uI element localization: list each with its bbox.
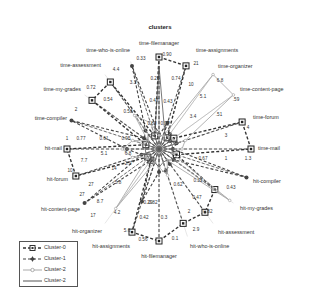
circle-marker-icon [133,114,136,117]
axis-label-time-organizer: time-organizer [218,63,253,69]
data-value-label: 2 [75,107,78,112]
data-value-label: 0.61 [100,136,109,141]
axis-label-time-who-is-online: time-who-is-online [86,47,130,53]
data-value-label: 0.58 [124,109,133,114]
axis-label-hit-compiler: hit-compiler [253,178,281,184]
data-value-label: 10 [67,168,73,173]
data-value-label: 6.8 [125,151,132,156]
axis-label-hit-my-grades: hit-my-grades [240,205,273,211]
legend-label: Cluster-2 [44,277,66,283]
data-value-label: 5.8 [115,180,122,185]
chart-title: clusters [148,24,172,30]
legend-item-cluster-2-light[interactable]: Cluster-2 [22,265,78,275]
star-marker-icon [130,64,134,68]
axis-label-time-content-page: time-content-page [240,86,283,92]
data-value-label: 0.43 [227,185,236,190]
solid-line-icon [22,276,44,286]
data-value-label: 17 [90,213,96,218]
star-marker-icon [244,175,248,179]
star-marker-icon [157,170,161,174]
data-value-label: 0.56 [139,237,148,242]
circle-marker-icon [228,199,231,202]
star-marker-icon [83,201,87,205]
legend-label: Cluster-1 [44,255,66,261]
dashed-star-marker-icon [22,254,44,264]
data-value-label: 4.4 [113,67,120,72]
legend-item-cluster-1[interactable]: Cluster-1 [22,254,78,264]
axis-label-hit-content-page: hit-content-page [41,206,80,212]
data-value-label: 4.2 [114,210,121,215]
data-value-label: 2 [188,209,191,214]
data-value-label: 0.74 [172,76,181,81]
data-value-label: 7.7 [81,158,88,163]
axis-label-time-mail: time-mail [258,145,280,151]
data-value-label: 14 [111,166,117,171]
legend-item-cluster-2-dark[interactable]: Cluster-2 [22,276,78,286]
dashed-square-marker-icon [22,243,44,253]
axis-label-hit-forum: hit-forum [47,176,69,182]
circle-marker-icon [184,139,187,142]
legend-item-cluster-0[interactable]: Cluster-0 [22,243,78,253]
circle-marker-icon [181,148,184,151]
data-value-label: 3.4 [190,114,197,119]
axis-label-hit-organizer: hit-organizer [72,228,102,234]
data-value-label: 0.77 [77,136,86,141]
data-value-label: 2.9 [193,227,200,232]
data-value-label: 0.1 [172,236,179,241]
data-value-label: 4 [247,125,250,130]
data-value-label: 0.82 [149,200,158,205]
circle-marker-icon [131,156,134,159]
axis-label-time-compiler: time-compiler [35,115,68,121]
light-line-circle-marker-icon [22,265,44,275]
data-value-label: 8.7 [97,199,104,204]
data-value-label: 21 [193,61,199,66]
data-value-label: 6.8 [217,78,224,83]
circle-marker-icon [212,73,215,76]
data-value-label: 3.3 [130,80,137,85]
data-value-label: .59 [233,97,240,102]
data-value-label: 0.54 [104,97,113,102]
axis-label-hit-assessment: hit-assessment [218,229,255,235]
data-value-label: 3 [225,133,228,138]
circle-marker-icon [232,94,235,97]
data-value-label: 2.9 [125,161,132,166]
data-value-label: 27 [79,192,85,197]
data-value-label: 0.25 [151,76,160,81]
axis-label-time-filemanager: time-filemanager [139,40,179,46]
data-value-label: 5.1 [200,94,207,99]
data-value-label: 0.72 [87,85,96,90]
data-value-label: 0.80 [148,121,157,126]
circle-marker-icon [131,139,134,142]
data-value-label: 0.95 [122,136,131,141]
axis-label-hit-assignments: hit-assignments [92,243,130,249]
data-value-label: 0.97 [161,121,170,126]
data-value-label: 0.43 [164,99,173,104]
data-value-label: 0.42 [140,215,149,220]
data-value-label: 0.3 [161,215,168,220]
circle-marker-icon [121,148,124,151]
data-value-label: 5.1 [101,151,108,156]
axis-label-hit-filemanager: hit-filemanager [141,253,177,259]
legend-label: Cluster-0 [44,244,66,250]
axis-label-time-forum: time-forum [253,114,279,120]
data-value-label: 10 [188,82,194,87]
data-value-label: 0.67 [199,156,208,161]
data-value-label: 0.47 [150,98,159,103]
data-value-label: .51 [216,112,223,117]
data-value-label: 0.33 [137,56,146,61]
data-value-label: 0.90 [163,52,172,57]
data-value-label: 0.32 [194,178,203,183]
axis-label-time-assessment: time-assessment [60,62,101,68]
data-value-label: 0.62 [174,182,183,187]
circle-marker-icon [166,174,169,177]
axis-label-hit-mail: hit-mail [45,145,62,151]
axis-label-hit-who-is-online: hit-who-is-online [190,243,229,249]
axis-label-time-assignments: time-assignments [196,47,239,53]
radar-chart: clusters time-filemanagertime-assignment… [0,0,312,308]
data-value-label: 0.82 [204,209,213,214]
data-value-label: 1 [225,156,228,161]
data-value-label: 27 [88,182,94,187]
data-value-label: 0.47 [193,195,202,200]
axis-label-time-my-grades: time-my-grades [44,86,82,92]
star-marker-icon [70,119,74,123]
